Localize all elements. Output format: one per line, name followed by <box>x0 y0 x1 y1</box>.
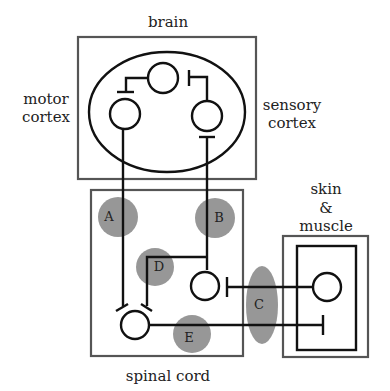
brain-label: brain <box>148 13 189 31</box>
region-e: E <box>173 315 211 353</box>
spinal-cord-label: spinal cord <box>126 367 211 385</box>
sensory-cortex-neuron <box>192 101 222 131</box>
region-c-label: C <box>254 297 264 312</box>
motor-cortex-label-line2: cortex <box>22 108 71 126</box>
motor-cortex-neuron <box>110 99 140 129</box>
motor-cortex-label-line1: motor <box>23 90 69 108</box>
region-c: C <box>246 266 278 344</box>
peripheral-sensory-neuron <box>313 273 341 301</box>
spinal-sensory-neuron <box>191 272 219 300</box>
neural-pathway-diagram: brain motor cortex sensory cortex spinal… <box>0 0 390 391</box>
skin-muscle-label-line2: & <box>319 199 332 217</box>
brain-interneuron <box>148 63 178 93</box>
skin-muscle-label-line1: skin <box>310 180 342 198</box>
region-a: A <box>98 197 138 237</box>
region-e-label: E <box>184 330 194 345</box>
sensory-cortex-label-line2: cortex <box>268 114 317 132</box>
region-b-label: B <box>214 210 224 225</box>
skin-muscle-label-line3: muscle <box>299 217 353 235</box>
brain-box <box>78 37 256 179</box>
top-to-motor-axon <box>126 78 148 92</box>
region-a-label: A <box>103 209 114 224</box>
region-d: D <box>136 248 174 286</box>
region-b: B <box>195 198 235 238</box>
region-d-label: D <box>154 259 164 274</box>
sensory-cortex-label-line1: sensory <box>263 96 322 114</box>
sensory-to-top-axon <box>189 77 207 100</box>
spinal-motor-neuron <box>121 311 149 339</box>
